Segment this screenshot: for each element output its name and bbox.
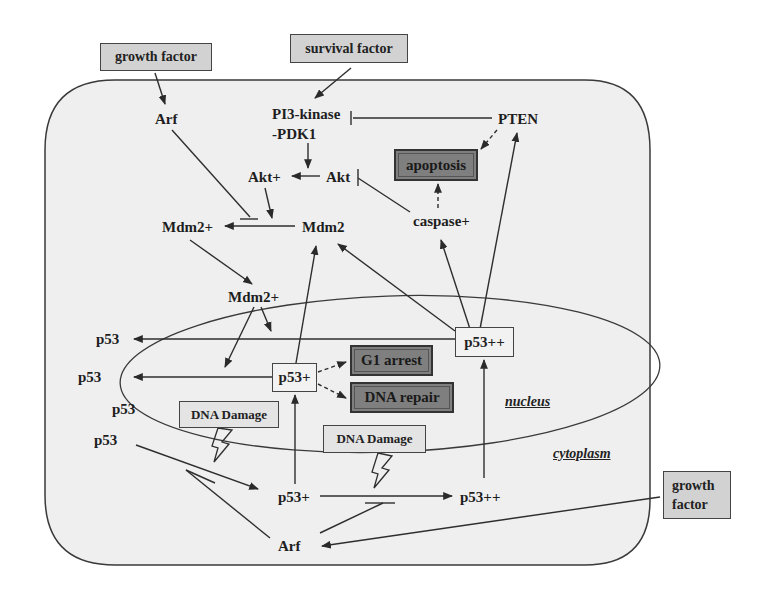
outcome-g1-arrest: G1 arrest bbox=[350, 345, 433, 376]
node-pi3k-line2: -PDK1 bbox=[272, 126, 316, 142]
outcome-apoptosis: apoptosis bbox=[394, 149, 478, 181]
node-p53-pp-nucleus: p53++ bbox=[455, 327, 514, 357]
node-p53-1: p53 bbox=[96, 331, 119, 347]
node-p53-pp-cyto: p53++ bbox=[460, 489, 500, 505]
node-p53-plus-nucleus: p53+ bbox=[272, 363, 317, 392]
node-arf-bottom: Arf bbox=[278, 538, 301, 554]
node-pi3k-line1: PI3-kinase bbox=[272, 106, 340, 122]
node-p53-3: p53 bbox=[112, 401, 135, 417]
node-mdm2-plus-nucleus: Mdm2+ bbox=[228, 289, 279, 305]
growth-factor-right-line1: growth bbox=[672, 476, 715, 495]
node-p53-4: p53 bbox=[94, 432, 117, 448]
outcome-dna-repair: DNA repair bbox=[350, 382, 454, 413]
node-akt: Akt bbox=[326, 169, 350, 185]
cell-membrane bbox=[45, 80, 650, 565]
node-mdm2: Mdm2 bbox=[302, 219, 345, 235]
dna-damage-box-2: DNA Damage bbox=[323, 425, 426, 453]
node-arf-top: Arf bbox=[155, 111, 178, 127]
growth-factor-top-box: growth factor bbox=[100, 43, 212, 71]
node-mdm2-plus-cyto: Mdm2+ bbox=[162, 219, 213, 235]
region-label-nucleus: nucleus bbox=[505, 394, 550, 410]
node-caspase-plus: caspase+ bbox=[413, 213, 470, 229]
pathway-wires bbox=[0, 0, 770, 593]
node-p53-2: p53 bbox=[78, 369, 101, 385]
growth-factor-right-box: growth factor bbox=[663, 471, 731, 519]
survival-factor-box: survival factor bbox=[290, 34, 408, 63]
growth-factor-right-line2: factor bbox=[672, 495, 708, 514]
node-pten: PTEN bbox=[498, 111, 538, 127]
node-p53-plus-cyto: p53+ bbox=[278, 489, 310, 505]
node-akt-plus: Akt+ bbox=[248, 169, 281, 185]
dna-damage-box-1: DNA Damage bbox=[179, 401, 279, 428]
region-label-cytoplasm: cytoplasm bbox=[553, 446, 611, 462]
